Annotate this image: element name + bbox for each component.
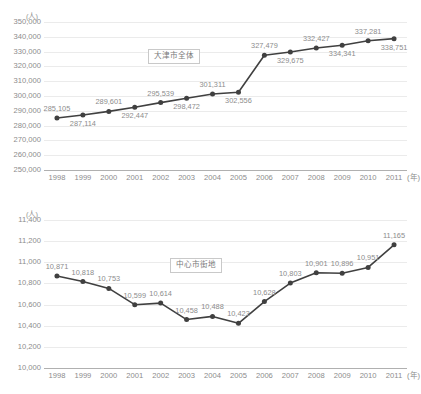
data-point-label: 11,165 xyxy=(383,232,405,239)
data-point-label: 337,281 xyxy=(355,28,382,35)
data-point-label: 338,751 xyxy=(381,44,408,51)
y-axis-tick-label: 10,200 xyxy=(18,343,41,351)
data-point-label: 10,599 xyxy=(123,292,146,299)
plot-area: 10,00010,20010,40010,60010,80011,00011,2… xyxy=(44,220,407,368)
x-axis-tick-label: 2005 xyxy=(230,372,247,380)
data-point-marker xyxy=(158,301,163,306)
y-axis-tick-label: 320,000 xyxy=(14,63,41,71)
y-axis-tick-label: 300,000 xyxy=(14,92,41,100)
plot-area: 250,000260,000270,000280,000290,000300,0… xyxy=(44,22,407,170)
chart-central-urban-area: (人)10,00010,20010,40010,60010,80011,0001… xyxy=(0,196,421,394)
x-axis-tick-label: 2009 xyxy=(334,372,351,380)
y-axis-tick-label: 290,000 xyxy=(14,107,41,115)
data-point-marker xyxy=(210,92,215,97)
data-point-marker xyxy=(54,273,59,278)
data-point-marker xyxy=(392,242,397,247)
y-axis-tick-label: 270,000 xyxy=(14,137,41,145)
data-point-label: 292,447 xyxy=(121,112,148,119)
y-axis-tick-label: 330,000 xyxy=(14,48,41,56)
y-axis-tick-label: 10,400 xyxy=(18,322,41,330)
y-axis-tick-label: 11,400 xyxy=(18,216,41,224)
x-axis-tick-label: 2011 xyxy=(386,372,402,380)
chart-otsu-city-total: (人)250,000260,000270,000280,000290,00030… xyxy=(0,0,421,196)
x-axis-tick-label: 2000 xyxy=(100,174,117,182)
x-axis-tick-label: 2008 xyxy=(308,174,325,182)
data-point-marker xyxy=(236,90,241,95)
x-axis-tick-label: 2007 xyxy=(282,174,299,182)
data-point-label: 10,818 xyxy=(72,269,95,276)
data-point-label: 10,458 xyxy=(175,307,198,314)
data-point-marker xyxy=(106,286,111,291)
x-axis-tick-label: 2003 xyxy=(178,174,195,182)
x-axis-tick-label: 2004 xyxy=(204,372,221,380)
y-axis-tick-label: 11,000 xyxy=(18,258,41,266)
data-point-marker xyxy=(80,113,85,118)
data-point-marker xyxy=(262,53,267,58)
data-point-marker xyxy=(132,302,137,307)
data-point-marker xyxy=(314,270,319,275)
data-point-label: 301,311 xyxy=(199,81,225,88)
y-axis-tick-label: 10,800 xyxy=(18,280,41,288)
x-axis-tick-label: 1999 xyxy=(74,372,91,380)
data-point-label: 10,488 xyxy=(201,303,224,310)
data-point-label: 10,628 xyxy=(253,289,276,296)
x-axis-tick-label: 2003 xyxy=(178,372,195,380)
x-axis-tick-label: 1999 xyxy=(74,174,91,182)
x-axis-tick-label: 2001 xyxy=(126,372,143,380)
x-axis-line xyxy=(44,368,407,369)
x-axis-tick-label: 2001 xyxy=(126,174,143,182)
x-axis-unit-label: (年) xyxy=(407,174,420,182)
chart-legend: 中心市街地 xyxy=(170,258,222,273)
data-point-label: 295,539 xyxy=(147,90,174,97)
data-point-marker xyxy=(184,96,189,101)
data-point-label: 10,951 xyxy=(357,254,380,261)
y-axis-tick-label: 11,200 xyxy=(18,237,41,245)
data-point-marker xyxy=(132,105,137,110)
data-point-marker xyxy=(366,265,371,270)
data-point-label: 329,675 xyxy=(277,57,304,64)
x-axis-tick-label: 2005 xyxy=(230,174,247,182)
data-point-label: 334,341 xyxy=(329,50,356,57)
data-point-label: 10,803 xyxy=(279,270,302,277)
x-axis-tick-label: 2007 xyxy=(282,372,299,380)
data-point-label: 298,472 xyxy=(173,103,200,110)
x-axis-tick-label: 2000 xyxy=(100,372,117,380)
data-point-marker xyxy=(262,299,267,304)
x-axis-tick-label: 2010 xyxy=(360,372,377,380)
x-axis-tick-label: 2002 xyxy=(152,174,169,182)
data-point-marker xyxy=(210,314,215,319)
y-axis-tick-label: 10,000 xyxy=(18,364,41,372)
data-point-marker xyxy=(366,38,371,43)
data-point-marker xyxy=(106,109,111,114)
data-point-label: 285,105 xyxy=(44,105,71,112)
chart-legend: 大津市全体 xyxy=(148,49,200,64)
data-point-label: 10,753 xyxy=(98,275,121,282)
data-point-label: 10,901 xyxy=(305,260,328,267)
data-point-label: 327,479 xyxy=(251,42,278,49)
x-axis-tick-label: 2006 xyxy=(256,174,273,182)
y-axis-tick-label: 350,000 xyxy=(14,18,41,26)
data-point-marker xyxy=(184,317,189,322)
data-series-line xyxy=(44,220,407,368)
data-point-marker xyxy=(314,46,319,51)
y-axis-tick-label: 280,000 xyxy=(14,122,41,130)
data-point-label: 10,423 xyxy=(227,310,250,317)
data-point-marker xyxy=(80,279,85,284)
x-axis-tick-label: 2009 xyxy=(334,174,351,182)
data-point-marker xyxy=(392,36,397,41)
x-axis-tick-label: 2004 xyxy=(204,174,221,182)
data-point-marker xyxy=(158,100,163,105)
x-axis-tick-label: 2011 xyxy=(386,174,402,182)
data-point-label: 332,427 xyxy=(303,35,330,42)
x-axis-unit-label: (年) xyxy=(407,372,420,380)
x-axis-tick-label: 2006 xyxy=(256,372,273,380)
data-point-marker xyxy=(54,116,59,121)
data-point-marker xyxy=(340,271,345,276)
data-point-marker xyxy=(236,321,241,326)
data-point-label: 302,556 xyxy=(225,97,252,104)
x-axis-tick-label: 1998 xyxy=(49,174,66,182)
y-axis-tick-label: 260,000 xyxy=(14,151,41,159)
data-point-marker xyxy=(340,43,345,48)
data-point-marker xyxy=(288,281,293,286)
data-point-marker xyxy=(288,50,293,55)
